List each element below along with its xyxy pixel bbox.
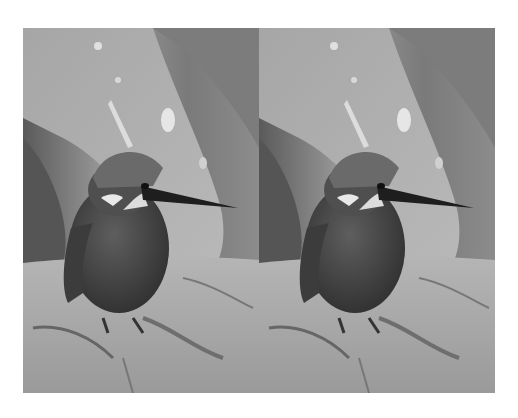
kingfisher-scene-right xyxy=(259,28,495,393)
kingfisher-scene-left xyxy=(23,28,259,393)
kingfisher-photo-right xyxy=(259,28,495,393)
kingfisher-photo-left xyxy=(23,28,259,393)
